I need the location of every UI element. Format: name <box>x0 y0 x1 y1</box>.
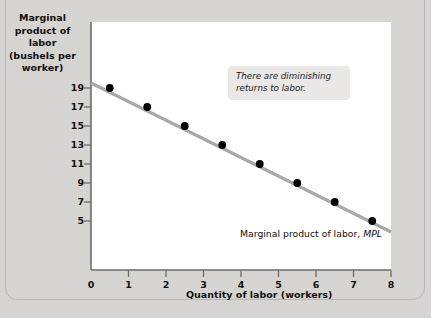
mpl-curve-label: Marginal product of labor, MPL <box>240 228 382 239</box>
data-point <box>256 160 264 168</box>
y-axis-title-line: product of labor <box>0 25 85 50</box>
diminishing-returns-annotation: There are diminishing returns to labor. <box>228 66 350 100</box>
data-point <box>181 122 189 130</box>
data-point <box>218 141 226 149</box>
y-tick-label-13: 13 <box>62 139 84 150</box>
y-tick-label-11: 11 <box>62 158 84 169</box>
y-tick-label-5: 5 <box>62 215 84 226</box>
y-axis-title-line: Marginal <box>0 12 85 25</box>
y-tick-label-17: 17 <box>62 101 84 112</box>
figure-background: Marginal product of labor (bushels per w… <box>0 0 431 318</box>
data-point <box>293 179 301 187</box>
curve-label-symbol: MPL <box>363 228 382 239</box>
curve-label-text: Marginal product of labor, <box>240 228 363 239</box>
y-tick-label-19: 19 <box>62 82 84 93</box>
y-axis-ticks <box>84 88 91 221</box>
mpl-series <box>91 83 391 232</box>
y-tick-label-7: 7 <box>62 196 84 207</box>
annotation-line: There are diminishing <box>236 71 343 83</box>
x-axis-ticks <box>129 270 392 277</box>
data-point <box>331 198 339 206</box>
x-tick-label-0: 0 <box>81 279 101 290</box>
data-point <box>143 103 151 111</box>
y-axis-title: Marginal product of labor (bushels per w… <box>0 12 85 75</box>
x-tick-label-1: 1 <box>119 279 139 290</box>
y-axis-title-line: (bushels per <box>0 50 85 63</box>
annotation-line: returns to labor. <box>236 83 343 95</box>
data-point <box>106 84 114 92</box>
y-tick-label-15: 15 <box>62 120 84 131</box>
data-point <box>368 217 376 225</box>
mpl-line <box>91 83 391 232</box>
annotation-text: There are diminishing returns to labor. <box>236 71 343 94</box>
x-axis-title: Quantity of labor (workers) <box>186 289 426 302</box>
y-axis-title-line: worker) <box>0 62 85 75</box>
x-tick-label-2: 2 <box>156 279 176 290</box>
y-tick-label-9: 9 <box>62 177 84 188</box>
